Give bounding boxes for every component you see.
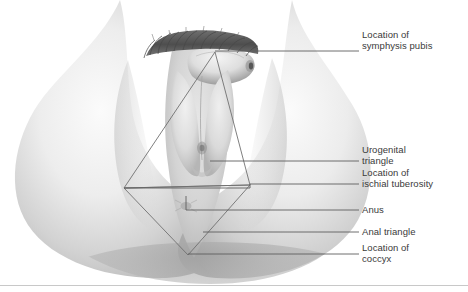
label-anal-triangle: Anal triangle <box>362 227 415 238</box>
introitus-core <box>200 145 205 151</box>
label-urogenital-triangle: Urogenital triangle <box>362 145 406 166</box>
label-symphysis-pubis: Location of symphysis pubis <box>362 30 432 51</box>
label-coccyx: Location of coccyx <box>362 243 409 264</box>
figure-baseline-rule <box>0 285 468 286</box>
mons-fold-tip-dark <box>249 63 253 70</box>
label-anus: Anus <box>362 205 384 216</box>
label-ischial-tuberosity: Location of ischial tuberosity <box>362 168 433 189</box>
